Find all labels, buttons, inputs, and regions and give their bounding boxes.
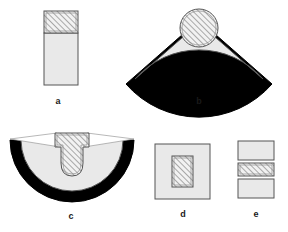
- figure-e-bottom-block: [238, 179, 274, 198]
- figure-a-hatched-cap: [44, 11, 78, 33]
- figure-b-label: b: [196, 96, 202, 106]
- figure-e: e: [238, 141, 274, 219]
- figure-d: d: [155, 144, 210, 219]
- figure-d-label: d: [180, 209, 186, 219]
- schematic-diagram: a b: [0, 0, 288, 232]
- figure-d-inner-hatched-rect: [172, 156, 193, 187]
- figure-c: c: [10, 133, 134, 221]
- figure-c-label: c: [68, 211, 73, 221]
- figure-e-label: e: [253, 209, 258, 219]
- figure-b: b: [126, 9, 272, 117]
- figure-panel: a b: [0, 0, 288, 232]
- figure-b-hatched-circle: [180, 9, 218, 47]
- figure-a-label: a: [55, 96, 61, 106]
- figure-e-top-block: [238, 141, 274, 160]
- figure-a-plain-body: [44, 33, 78, 85]
- figure-a: a: [44, 11, 78, 106]
